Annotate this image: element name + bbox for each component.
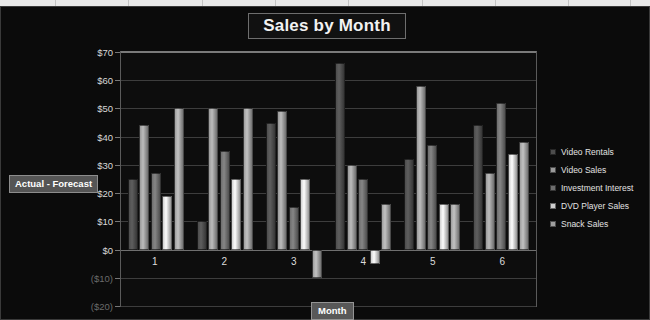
bar[interactable] [266, 123, 276, 250]
legend-swatch-icon [550, 185, 556, 191]
x-axis-tick-label: 5 [398, 251, 468, 273]
y-axis-tick-mark [115, 278, 120, 279]
y-axis-tick-label: $50 [67, 103, 113, 114]
x-axis-title[interactable]: Month [311, 302, 354, 320]
bar[interactable] [128, 179, 138, 250]
legend-item-label: Snack Sales [561, 219, 608, 229]
y-axis-title[interactable]: Actual - Forecast [9, 175, 98, 193]
chart-title[interactable]: Sales by Month [248, 13, 406, 39]
bar[interactable] [358, 179, 368, 250]
legend-swatch-icon [550, 167, 556, 173]
bar[interactable] [300, 179, 310, 250]
legend-item[interactable]: Video Rentals [550, 143, 648, 161]
legend-item[interactable]: Video Sales [550, 161, 648, 179]
bar[interactable] [151, 173, 161, 249]
y-axis-tick-mark [115, 250, 120, 251]
y-axis-tick-label: $40 [67, 131, 113, 142]
y-axis-tick-label: $0 [67, 244, 113, 255]
legend-item-label: Video Sales [561, 165, 606, 175]
y-axis-tick-label: $30 [67, 159, 113, 170]
x-axis-tick-label: 4 [329, 251, 399, 273]
y-axis-tick-mark [115, 108, 120, 109]
bar[interactable] [485, 173, 495, 249]
legend-item[interactable]: DVD Player Sales [550, 197, 648, 215]
bar[interactable] [174, 108, 184, 249]
y-axis-tick-label: $70 [67, 47, 113, 58]
bar[interactable] [243, 108, 253, 249]
bar[interactable] [231, 179, 241, 250]
bar[interactable] [473, 125, 483, 249]
y-axis-tick-mark [115, 52, 120, 53]
legend-item-label: DVD Player Sales [561, 201, 629, 211]
chart-legend[interactable]: Video RentalsVideo SalesInvestment Inter… [550, 143, 648, 233]
y-axis-tick-label: $10 [67, 216, 113, 227]
legend-item-label: Video Rentals [561, 147, 614, 157]
bar[interactable] [220, 151, 230, 250]
bar[interactable] [519, 142, 529, 249]
legend-swatch-icon [550, 149, 556, 155]
bar[interactable] [427, 145, 437, 249]
bar[interactable] [404, 159, 414, 249]
bar[interactable] [439, 204, 449, 249]
y-axis-tick-mark [115, 137, 120, 138]
bar[interactable] [139, 125, 149, 249]
bar[interactable] [508, 154, 518, 250]
x-axis-tick-label: 1 [120, 251, 190, 273]
bar[interactable] [289, 207, 299, 249]
x-axis-tick-label: 2 [190, 251, 260, 273]
y-axis-tick-mark [115, 80, 120, 81]
bar[interactable] [335, 63, 345, 249]
legend-swatch-icon [550, 203, 556, 209]
bar[interactable] [496, 103, 506, 250]
y-axis-tick-label: $60 [67, 75, 113, 86]
legend-item[interactable]: Snack Sales [550, 215, 648, 233]
bar[interactable] [277, 111, 287, 249]
x-axis-tick-label: 3 [259, 251, 329, 273]
y-axis-tick-label: ($20) [67, 301, 113, 312]
bar[interactable] [208, 108, 218, 249]
bar[interactable] [197, 221, 207, 249]
chart-container[interactable]: Sales by Month $70$60$50$40$30$20$10$0($… [0, 6, 650, 320]
bar[interactable] [450, 204, 460, 249]
chart-screenshot: Sales by Month $70$60$50$40$30$20$10$0($… [0, 0, 650, 320]
x-axis-tick-label: 6 [468, 251, 538, 273]
legend-item-label: Investment Interest [561, 183, 633, 193]
x-axis-tick-labels: 123456 [120, 251, 537, 273]
bar[interactable] [381, 204, 391, 249]
y-axis-tick-label: ($10) [67, 272, 113, 283]
bar[interactable] [162, 196, 172, 250]
legend-item[interactable]: Investment Interest [550, 179, 648, 197]
legend-swatch-icon [550, 221, 556, 227]
y-axis-tick-mark [115, 165, 120, 166]
bar[interactable] [347, 165, 357, 250]
y-axis-tick-mark [115, 193, 120, 194]
y-axis-tick-mark [115, 306, 120, 307]
y-axis-tick-mark [115, 221, 120, 222]
bar[interactable] [416, 86, 426, 250]
